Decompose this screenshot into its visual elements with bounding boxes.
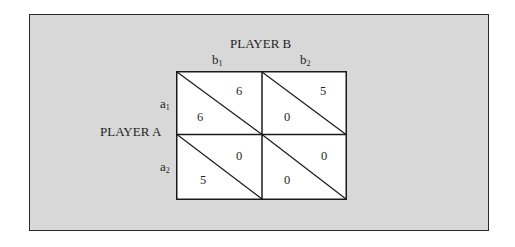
payoff-matrix: 6 6 5 0 0 5 0 0 xyxy=(176,71,347,200)
player-a-label: PLAYER A xyxy=(100,124,161,140)
cell-a1b1-payoff-a: 6 xyxy=(197,110,203,125)
cell-a1b2-payoff-b: 5 xyxy=(320,84,326,99)
strategy-a2-label: a2 xyxy=(160,159,170,175)
strategy-b1-label: b1 xyxy=(212,52,223,68)
strategy-b2-label: b2 xyxy=(300,52,311,68)
player-b-label: PLAYER B xyxy=(230,36,291,52)
strategy-a1-label: a1 xyxy=(160,96,170,112)
cell-a2b1-payoff-a: 5 xyxy=(200,173,206,188)
cell-a2b2-payoff-a: 0 xyxy=(284,173,290,188)
cell-a1b2-payoff-a: 0 xyxy=(284,110,290,125)
cell-a2b1-payoff-b: 0 xyxy=(236,149,242,164)
cell-a1b1-payoff-b: 6 xyxy=(236,84,242,99)
cell-a2b2-payoff-b: 0 xyxy=(321,149,327,164)
